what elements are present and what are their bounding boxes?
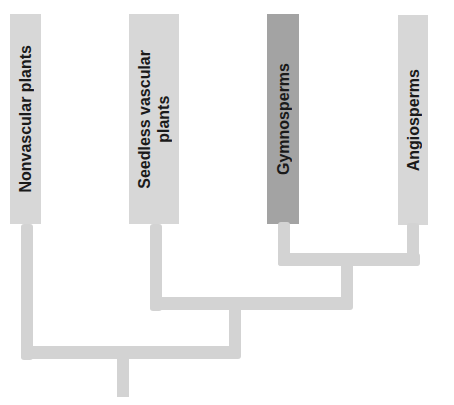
- taxon-label-angiosperms: Angiosperms: [404, 69, 423, 171]
- branch-root-stem: [117, 356, 129, 397]
- taxon-box-gymnosperms: Gymnosperms: [267, 14, 299, 224]
- taxon-label-seedless-vascular-plants: Seedless vascular plants: [135, 50, 173, 189]
- branch-root-horizontal: [21, 346, 241, 359]
- taxon-box-seedless-vascular-plants: Seedless vascular plants: [129, 14, 179, 224]
- taxon-box-nonvascular-plants: Nonvascular plants: [10, 14, 41, 224]
- branch-vascular-horizontal: [150, 297, 353, 310]
- branch-vascular-connector: [229, 305, 241, 350]
- branch-seed-plants-connector: [341, 262, 353, 302]
- branch-angiosperms-vertical: [407, 223, 419, 266]
- taxon-box-angiosperms: Angiosperms: [398, 15, 428, 225]
- branch-nonvascular-vertical: [21, 224, 33, 360]
- taxon-label-nonvascular-plants: Nonvascular plants: [16, 45, 35, 193]
- taxon-label-gymnosperms: Gymnosperms: [274, 63, 293, 175]
